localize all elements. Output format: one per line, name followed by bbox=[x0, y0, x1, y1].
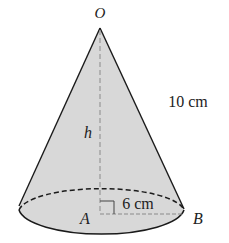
radius-label: 6 cm bbox=[122, 195, 154, 212]
center-label: A bbox=[79, 210, 90, 227]
height-label: h bbox=[84, 124, 92, 141]
apex-label: O bbox=[95, 5, 106, 21]
rim-point-label: B bbox=[193, 210, 203, 227]
slant-height-label: 10 cm bbox=[168, 93, 208, 110]
cone-lateral-surface bbox=[19, 28, 184, 233]
cone-diagram: O h 10 cm 6 cm A B bbox=[0, 0, 229, 243]
